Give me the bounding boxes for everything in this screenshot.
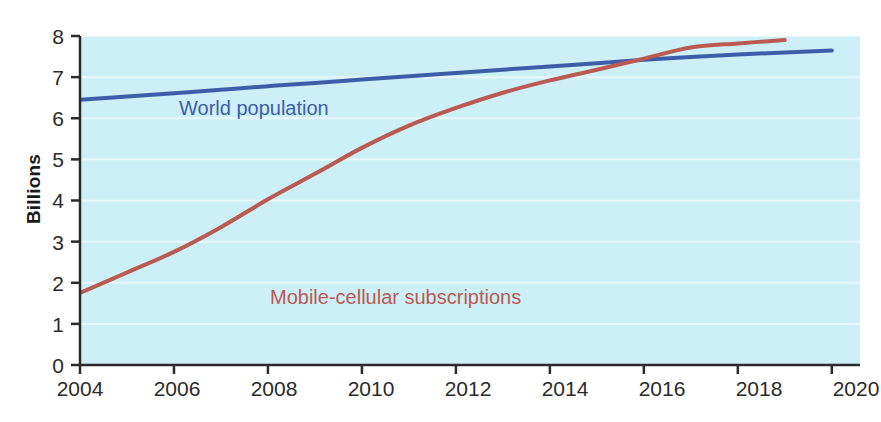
y-tick-label: 5 (34, 149, 64, 170)
x-tick-label: 2012 (423, 378, 513, 399)
y-tick-label: 2 (34, 273, 64, 294)
y-tick-label: 0 (34, 355, 64, 376)
plot-area: World population Mobile-cellular subscri… (80, 36, 860, 365)
x-tick-label: 2008 (229, 378, 319, 399)
series-label-mobile-cellular: Mobile-cellular subscriptions (270, 287, 521, 307)
y-tick-label: 7 (34, 67, 64, 88)
x-tick-label: 2006 (132, 378, 222, 399)
series-label-world-population: World population (179, 98, 329, 118)
y-tick-label: 6 (34, 108, 64, 129)
x-tick-label: 2014 (520, 378, 610, 399)
x-tick-label: 2010 (326, 378, 416, 399)
x-tick-label: 2020 (811, 378, 881, 399)
y-tick-label: 4 (34, 190, 64, 211)
y-tick-label: 1 (34, 314, 64, 335)
series-canvas (80, 36, 860, 365)
y-tick-label: 8 (34, 26, 64, 47)
gridlines (80, 36, 860, 324)
y-tick-label: 3 (34, 232, 64, 253)
series-line-world-population (80, 50, 832, 99)
chart-figure: Billions 8 7 6 5 4 3 2 1 0 2004 2006 200… (0, 0, 881, 422)
x-tick-label: 2018 (714, 378, 804, 399)
y-axis-title: Billions (23, 129, 45, 249)
x-tick-label: 2016 (617, 378, 707, 399)
x-tick-label: 2004 (35, 378, 125, 399)
